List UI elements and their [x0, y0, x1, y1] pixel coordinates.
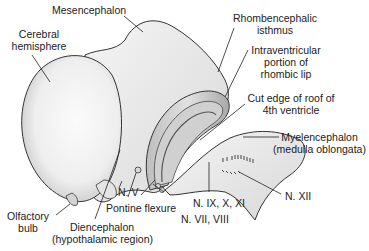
- label-line: Cerebral: [9, 28, 69, 40]
- label-line: rhombic lip: [246, 68, 326, 80]
- label-line: bulb: [4, 222, 52, 234]
- label-rhombic-lip: Intraventricular portion of rhombic lip: [246, 44, 326, 80]
- label-pontine-flexure: Pontine flexure: [106, 202, 176, 214]
- label-mesencephalon: Mesencephalon: [52, 4, 126, 16]
- n-v-stub: [135, 167, 141, 173]
- label-line: Rhombencephalic: [225, 12, 325, 24]
- label-line: 4th ventricle: [242, 104, 340, 116]
- label-line: isthmus: [225, 24, 325, 36]
- label-line: Cut edge of roof of: [242, 92, 340, 104]
- label-line: Intraventricular: [246, 44, 326, 56]
- label-diencephalon: Diencephalon (hypothalamic region): [52, 221, 152, 245]
- label-myelencephalon: Myelencephalon (medulla oblongata): [272, 131, 367, 155]
- label-line: Diencephalon: [52, 221, 152, 233]
- label-line: (hypothalamic region): [52, 233, 152, 245]
- label-line: Olfactory: [4, 210, 52, 222]
- label-olfactory-bulb: Olfactory bulb: [4, 210, 52, 234]
- cerebral-hemisphere-shape: [22, 56, 122, 202]
- label-n-ix-x-xi: N. IX, X, XI: [193, 197, 245, 209]
- label-n-vii-viii: N. VII, VIII: [181, 213, 229, 225]
- label-line: Myelencephalon: [272, 131, 367, 143]
- label-line: (medulla oblongata): [272, 143, 367, 155]
- label-n-xii: N. XII: [285, 190, 311, 202]
- label-line: portion of: [246, 56, 326, 68]
- label-n-v: N. V: [118, 186, 138, 198]
- label-line: hemisphere: [9, 40, 69, 52]
- label-cerebral-hemisphere: Cerebral hemisphere: [9, 28, 69, 52]
- label-cut-edge-roof: Cut edge of roof of 4th ventricle: [242, 92, 340, 116]
- label-rhombencephalic-isthmus: Rhombencephalic isthmus: [225, 12, 325, 36]
